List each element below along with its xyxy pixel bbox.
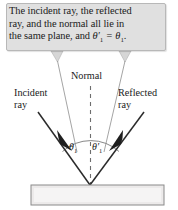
label-reflected-line1: Reflected	[118, 87, 157, 98]
callout-text: The incident ray, the reflected ray, and…	[9, 5, 165, 47]
label-incident-line1: Incident	[14, 87, 47, 98]
incident-ray	[38, 112, 90, 185]
angle-label-incident: θ1	[69, 141, 77, 154]
reflected-ray-arrowhead	[109, 130, 123, 151]
label-incident-line2: ray	[14, 99, 27, 110]
label-reflected-line2: ray	[118, 99, 131, 110]
label-reflected-ray: Reflected ray	[118, 87, 157, 110]
callout-tail-right	[119, 51, 131, 62]
angle-reflected-subscript: 1	[99, 147, 102, 154]
callout-line-3: the same plane, and	[9, 30, 93, 41]
angle-incident-subscript: 1	[74, 147, 77, 154]
callout-line-2: ray, and the normal all lie in	[9, 18, 124, 29]
equation-theta-prime: θ′	[93, 30, 100, 41]
callout-equation: θ′1 = θ1	[93, 30, 124, 41]
label-normal: Normal	[71, 70, 102, 82]
equation-equals: =	[103, 30, 115, 41]
callout-period: .	[124, 30, 127, 41]
label-incident-ray: Incident ray	[14, 87, 47, 110]
callout-line-1: The incident ray, the reflected	[9, 5, 132, 16]
slab-inner-highlight	[34, 188, 161, 202]
angle-label-reflected: θ′1	[92, 141, 102, 154]
callout-tail-left	[51, 51, 63, 62]
reflection-figure: The incident ray, the reflected ray, and…	[0, 0, 178, 210]
